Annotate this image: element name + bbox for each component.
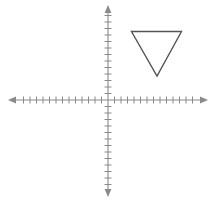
x-axis-right-arrowhead: [200, 97, 208, 104]
triangle: [132, 32, 182, 77]
y-axis-up-arrowhead: [105, 5, 112, 13]
y-axis-down-arrowhead: [105, 189, 112, 197]
shapes-layer: [132, 32, 182, 77]
y-axis-group: [105, 5, 112, 197]
coordinate-plane-figure: [0, 0, 214, 203]
coordinate-plane-svg: [0, 0, 214, 203]
x-axis-left-arrowhead: [8, 97, 16, 104]
